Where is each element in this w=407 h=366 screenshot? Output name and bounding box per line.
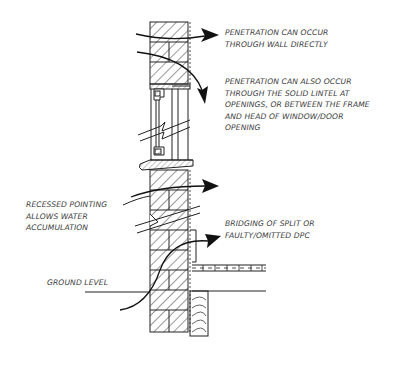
label-ground-level: GROUND LEVEL — [47, 277, 108, 289]
inner-leaf — [190, 291, 208, 336]
wall-section-drawing — [0, 0, 407, 366]
window-sill — [139, 160, 193, 170]
window-frame — [138, 89, 190, 160]
floor-dpm — [192, 265, 266, 291]
label-wall-direct: PENETRATION CAN OCCUR THROUGH WALL DIREC… — [225, 27, 328, 50]
label-dpc: BRIDGING OF SPLIT OR FAULTY/OMITTED DPC — [225, 218, 315, 241]
label-recessed-pointing: RECESSED POINTING ALLOWS WATER ACCUMULAT… — [26, 199, 107, 234]
label-lintel: PENETRATION CAN ALSO OCCUR THROUGH THE S… — [225, 76, 370, 134]
upper-brickwork — [150, 22, 190, 84]
pointing-leader — [123, 196, 150, 205]
